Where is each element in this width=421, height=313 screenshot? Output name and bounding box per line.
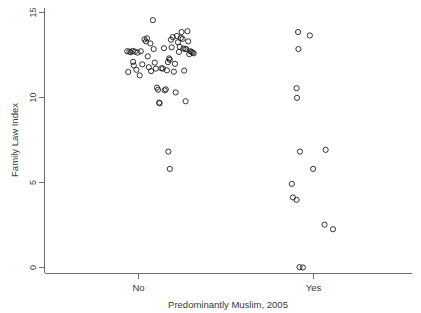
data-point	[166, 149, 171, 154]
data-point	[185, 29, 190, 34]
data-point	[294, 86, 299, 91]
y-tick-label-5: 5	[28, 180, 38, 185]
data-point	[171, 69, 176, 74]
data-point	[180, 36, 185, 41]
data-point	[134, 67, 139, 72]
y-tick-label-0: 0	[28, 265, 38, 270]
data-point	[151, 46, 156, 51]
data-point	[295, 29, 300, 34]
data-point	[150, 18, 155, 23]
data-point	[161, 46, 166, 51]
data-point	[300, 265, 305, 270]
data-point	[322, 222, 327, 227]
data-point	[126, 69, 131, 74]
data-point	[323, 147, 328, 152]
data-point	[330, 227, 335, 232]
scatter-plot-figure: 15 10 5 0 Family Law Index No Yes Predom…	[0, 0, 421, 313]
x-axis-title: Predominantly Muslim, 2005	[168, 299, 288, 310]
series-yes-points	[289, 29, 335, 270]
data-point	[152, 60, 157, 65]
data-point	[140, 62, 145, 67]
series-no-points	[125, 18, 197, 172]
data-point	[173, 90, 178, 95]
x-category-label-no: No	[132, 282, 144, 293]
data-point	[172, 61, 177, 66]
data-point	[179, 29, 184, 34]
data-point	[182, 68, 187, 73]
data-point	[311, 166, 316, 171]
data-point	[183, 99, 188, 104]
data-point	[289, 181, 294, 186]
x-category-label-yes: Yes	[306, 282, 322, 293]
data-point	[169, 45, 174, 50]
data-point	[307, 33, 312, 38]
data-point	[137, 73, 142, 78]
data-point	[145, 54, 150, 59]
data-point	[186, 39, 191, 44]
data-point	[138, 49, 143, 54]
data-point	[296, 46, 301, 51]
data-point	[148, 41, 153, 46]
y-axis-title: Family Law Index	[9, 103, 20, 177]
y-tick-label-10: 10	[28, 92, 38, 102]
data-point	[153, 66, 158, 71]
data-point	[297, 149, 302, 154]
data-point	[294, 95, 299, 100]
data-point	[167, 166, 172, 171]
plot-canvas: 15 10 5 0 Family Law Index No Yes Predom…	[0, 0, 421, 313]
y-tick-label-15: 15	[28, 7, 38, 17]
